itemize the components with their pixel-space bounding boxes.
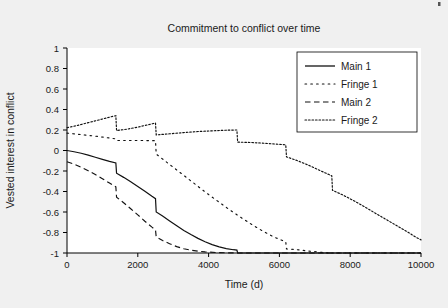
y-tick-label: -1 (51, 248, 59, 259)
y-tick-label: 0.6 (46, 84, 59, 95)
chart-canvas: Commitment to conflict over time 0200040… (0, 0, 448, 308)
x-tick-label: 4000 (198, 259, 219, 270)
y-tick-label: -0.4 (43, 186, 59, 197)
x-tick-label: 0 (64, 259, 69, 270)
y-tick-label: -0.6 (43, 207, 59, 218)
legend-item-label[interactable]: Main 1 (341, 61, 371, 72)
chart-legend[interactable]: Main 1Fringe 1Main 2Fringe 2 (297, 52, 417, 132)
y-tick-label: 0.2 (46, 125, 59, 136)
x-tick-label: 6000 (269, 259, 290, 270)
y-tick-label: 0.8 (46, 63, 59, 74)
legend-item-label[interactable]: Main 2 (341, 97, 371, 108)
y-tick-label: -0.8 (43, 227, 59, 238)
x-axis-label: Time (d) (225, 278, 264, 290)
y-tick-label: 0.4 (46, 104, 59, 115)
x-tick-label: 8000 (340, 259, 361, 270)
chart-figure: Commitment to conflict over time 0200040… (0, 0, 448, 308)
corner-marker (438, 2, 441, 6)
y-tick-label: -0.2 (43, 166, 59, 177)
x-tick-label: 10000 (408, 259, 434, 270)
chart-title: Commitment to conflict over time (168, 22, 321, 34)
y-tick-label: 1 (54, 43, 59, 54)
y-axis-label: Vested interest in conflict (4, 92, 16, 208)
y-tick-label: 0 (54, 145, 59, 156)
x-tick-label: 2000 (127, 259, 148, 270)
legend-item-label[interactable]: Fringe 2 (341, 115, 378, 126)
legend-item-label[interactable]: Fringe 1 (341, 79, 378, 90)
